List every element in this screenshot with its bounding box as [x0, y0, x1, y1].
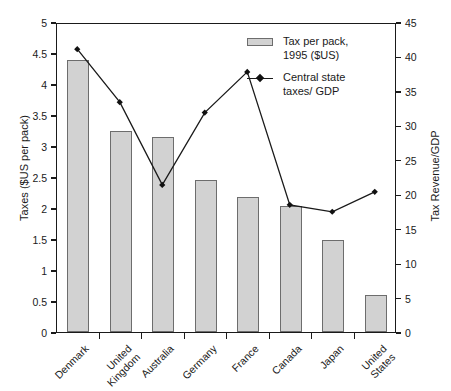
- y-axis-right-tick: [396, 332, 401, 333]
- bar: [322, 240, 344, 332]
- y-axis-left-tick-label: 0.5: [0, 297, 47, 308]
- legend-label: Central state taxes/ GDP: [283, 71, 345, 98]
- y-axis-right-tick-label: 25: [405, 156, 417, 167]
- legend-diamond-icon: [256, 73, 264, 81]
- y-axis-left-tick-label: 5: [0, 18, 47, 29]
- x-axis-tick: [99, 333, 100, 339]
- legend-line-marker-icon: [246, 71, 276, 84]
- y-axis-right-tick-label: 5: [405, 294, 411, 305]
- bar: [195, 180, 217, 332]
- x-axis-tick: [141, 333, 142, 339]
- x-axis-category-label: Denmark: [35, 343, 91, 391]
- y-axis-right-tick: [396, 22, 401, 23]
- x-axis-tick: [354, 333, 355, 339]
- bar: [67, 60, 89, 332]
- y-axis-right-tick-label: 30: [405, 121, 417, 132]
- bar: [152, 137, 174, 332]
- x-axis-ticks: [56, 333, 396, 340]
- y-axis-right-tick: [396, 298, 401, 299]
- y-axis-left-tick-label: 1: [0, 266, 47, 277]
- y-axis-right-tick: [396, 57, 401, 58]
- y-axis-left-title: Taxes ($US per pack): [18, 78, 30, 258]
- bar: [365, 295, 387, 332]
- legend: Tax per pack, 1995 ($US)Central state ta…: [246, 35, 381, 107]
- y-axis-right-tick-label: 20: [405, 190, 417, 201]
- y-axis-right-tick: [396, 126, 401, 127]
- chart-container: 00.511.522.533.544.55 051015202530354045…: [0, 0, 451, 391]
- y-axis-right-tick: [396, 91, 401, 92]
- y-axis-right-tick: [396, 264, 401, 265]
- y-axis-right-tick-label: 40: [405, 52, 417, 63]
- legend-item: Central state taxes/ GDP: [246, 71, 381, 98]
- x-axis-tick: [269, 333, 270, 339]
- y-axis-right-title: Tax Revenue/GDP: [429, 96, 441, 256]
- bar: [237, 197, 259, 332]
- bar: [110, 131, 132, 332]
- y-axis-right-tick-label: 15: [405, 225, 417, 236]
- legend-item: Tax per pack, 1995 ($US): [246, 35, 381, 62]
- y-axis-right-tick-label: 10: [405, 259, 417, 270]
- y-axis-right-tick: [396, 160, 401, 161]
- legend-bar-swatch-icon: [246, 35, 276, 48]
- y-axis-right-tick-label: 45: [405, 18, 417, 29]
- legend-swatch: [247, 38, 273, 46]
- y-axis-right-tick: [396, 229, 401, 230]
- y-axis-right-tick: [396, 195, 401, 196]
- y-axis-right-tick-label: 35: [405, 87, 417, 98]
- x-axis-tick: [184, 333, 185, 339]
- x-axis-tick: [311, 333, 312, 339]
- x-axis-tick: [226, 333, 227, 339]
- y-axis-left-tick-label: 0: [0, 328, 47, 339]
- bar: [280, 206, 302, 332]
- legend-label: Tax per pack, 1995 ($US): [283, 35, 348, 62]
- y-axis-right-tick-label: 0: [405, 328, 411, 339]
- y-axis-left-tick-label: 4.5: [0, 49, 47, 60]
